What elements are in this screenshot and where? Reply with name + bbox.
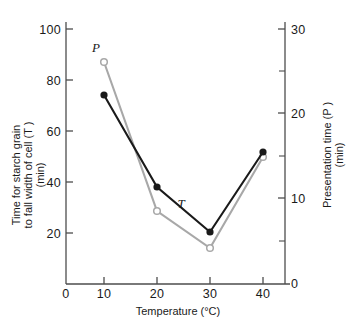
left-tick-label-100: 100 (39, 23, 61, 37)
chart-svg: 100 80 60 40 20 0 10 20 30 40 (0, 0, 359, 331)
right-tick-label-10: 10 (291, 192, 306, 206)
series-t-point-30 (206, 228, 213, 235)
chart-background (0, 0, 359, 331)
right-axis-title-line1: Presentation time (P ) (321, 102, 333, 208)
right-axis-title-line2: (min) (333, 142, 345, 167)
x-tick-label-10: 10 (97, 287, 112, 301)
series-label-t: T (177, 196, 185, 211)
series-p-point-10 (101, 59, 108, 66)
left-tick-label-80: 80 (46, 74, 61, 88)
x-tick-label-0: 0 (62, 287, 69, 301)
figure-container: 100 80 60 40 20 0 10 20 30 40 (0, 0, 359, 331)
series-p-point-30 (207, 245, 214, 252)
x-tick-label-20: 20 (150, 287, 165, 301)
series-label-p: P (91, 40, 100, 55)
x-tick-label-40: 40 (256, 287, 271, 301)
series-t-point-40 (259, 148, 266, 155)
left-axis-title-line1: Time for starch grain (10, 125, 22, 225)
right-tick-label-30: 30 (291, 23, 306, 37)
series-p-point-20 (154, 208, 161, 215)
left-axis-title-line3: (min) (34, 162, 46, 187)
series-t-point-20 (153, 183, 160, 190)
left-tick-label-60: 60 (46, 125, 61, 139)
x-tick-label-30: 30 (203, 287, 218, 301)
right-tick-label-20: 20 (291, 107, 306, 121)
series-t-point-10 (100, 91, 107, 98)
right-tick-label-0: 0 (291, 277, 298, 291)
x-axis-title: Temperature (°C) (136, 305, 220, 317)
left-axis-title-line2: to fall width of cell (T ) (22, 122, 34, 229)
left-tick-label-20: 20 (46, 227, 61, 241)
left-tick-label-40: 40 (46, 176, 61, 190)
